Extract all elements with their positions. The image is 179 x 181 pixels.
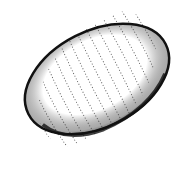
illustration-canvas xyxy=(0,0,179,181)
egg-shape xyxy=(6,0,179,157)
egg-illustration xyxy=(0,0,179,181)
